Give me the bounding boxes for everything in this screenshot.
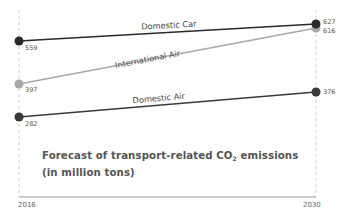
value-label-domestic-car-2016: 559	[25, 44, 37, 52]
value-label-international-air-2016: 397	[25, 86, 37, 94]
x-tick-2016: 2016	[18, 201, 36, 209]
series-domestic-car: Domestic Car	[15, 18, 321, 45]
title-line-1-end: emissions	[237, 150, 299, 161]
chart-canvas: International Air Domestic Car Domestic …	[0, 0, 348, 217]
title-line-1: Forecast of transport-related CO	[42, 150, 233, 161]
line-chart: International Air Domestic Car Domestic …	[0, 0, 348, 217]
value-label-domestic-air-2016: 282	[25, 120, 37, 128]
x-tick-2030: 2030	[303, 201, 321, 209]
chart-title: Forecast of transport-related CO2 emissi…	[42, 149, 298, 180]
series-domestic-air: Domestic Air	[15, 88, 321, 122]
title-line-2: (in million tons)	[42, 167, 135, 178]
data-point	[15, 113, 24, 122]
series-label-international-air: International Air	[114, 48, 181, 70]
data-point	[312, 88, 321, 97]
data-point	[312, 20, 321, 29]
value-label-domestic-air-2030: 376	[323, 88, 335, 96]
series-label-domestic-car: Domestic Car	[141, 18, 197, 31]
data-point	[15, 80, 24, 89]
value-label-international-air-2030: 616	[323, 27, 335, 35]
data-point	[15, 37, 24, 46]
value-label-domestic-car-2030: 627	[323, 18, 335, 26]
